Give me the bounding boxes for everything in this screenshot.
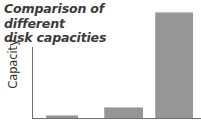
bar-3: [155, 12, 193, 118]
bar-2: [104, 107, 143, 118]
chart-figure: Comparison of different disk capacities …: [0, 0, 201, 128]
plot-area: [0, 0, 201, 128]
bar-1: [46, 115, 78, 118]
